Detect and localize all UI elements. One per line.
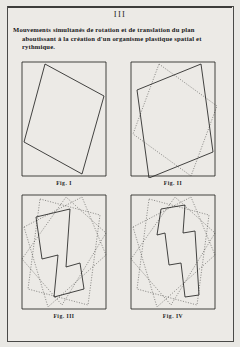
- frame-rectangle: [131, 195, 215, 309]
- figure-panel-1: Fig. I: [20, 60, 108, 178]
- rotated-rectangle-solid: [24, 64, 104, 174]
- figure-panel-4: Fig. IV: [129, 193, 217, 311]
- figure-4-label: Fig. IV: [129, 313, 217, 319]
- plate-caption-line-2: aboutissant à la création d'un organisme…: [13, 35, 235, 44]
- figure-grid: Fig. I Fig. II Fig. III Fig. IV: [0, 58, 240, 343]
- zigzag-plane-solid: [157, 205, 199, 297]
- page-folio-number: III: [0, 9, 240, 19]
- frame-rectangle: [22, 62, 106, 176]
- rotated-rectangle-dotted-a: [137, 199, 209, 305]
- figure-3-label: Fig. III: [20, 313, 108, 319]
- rotated-rectangle-dotted: [133, 64, 217, 176]
- figure-2-label: Fig. II: [129, 180, 217, 186]
- rotated-rectangle-dotted-a: [28, 199, 100, 305]
- plate-caption-line-1: Mouvements simultanés de rotation et de …: [13, 26, 235, 35]
- figure-panel-3: Fig. III: [20, 193, 108, 311]
- figure-1-drawing: [20, 60, 108, 178]
- frame-rectangle: [22, 195, 106, 309]
- figure-1-label: Fig. I: [20, 180, 108, 186]
- plate-caption: Mouvements simultanés de rotation et de …: [13, 26, 235, 52]
- figure-4-drawing: [129, 193, 217, 311]
- folio-rule: [8, 6, 232, 8]
- plate-caption-line-3: rythmique.: [13, 43, 235, 52]
- rotated-rectangle-solid: [137, 64, 213, 178]
- figure-2-drawing: [129, 60, 217, 178]
- frame-rectangle: [131, 62, 215, 176]
- document-page: III Mouvements simultanés de rotation et…: [0, 0, 240, 347]
- figure-3-drawing: [20, 193, 108, 311]
- figure-panel-2: Fig. II: [129, 60, 217, 178]
